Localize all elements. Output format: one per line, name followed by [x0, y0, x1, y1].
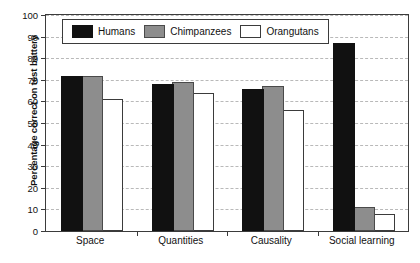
bar-group — [227, 15, 318, 231]
bar-orangs — [373, 214, 395, 231]
plot-area: 0102030405060708090100 — [45, 14, 409, 232]
bar-orangs — [101, 99, 123, 231]
y-axis-tick-label: 50 — [14, 118, 38, 129]
y-axis-title: Percentage correct on test battery — [28, 16, 39, 206]
x-axis-tick — [137, 231, 138, 236]
bar-chart-figure: Percentage correct on test battery 01020… — [0, 0, 420, 263]
bar-orangs — [192, 93, 214, 231]
bar-orangs — [282, 110, 304, 231]
legend-swatch-humans-icon — [72, 25, 93, 38]
legend-label: Humans — [98, 26, 135, 37]
bar-humans — [152, 84, 174, 231]
bar-humans — [333, 43, 355, 231]
x-axis-tick-label: Quantities — [158, 235, 203, 246]
legend-swatch-chimps-icon — [144, 25, 165, 38]
y-axis-tick-label: 100 — [14, 10, 38, 21]
legend-label: Orangutans — [266, 26, 318, 37]
y-axis-tick-label: 0 — [14, 226, 38, 237]
bar-chimps — [353, 207, 375, 231]
legend-item-orangs: Orangutans — [240, 25, 318, 38]
bar-chimps — [262, 86, 284, 231]
bar-chimps — [172, 82, 194, 231]
x-axis-tick-label: Social learning — [329, 235, 395, 246]
y-axis-tick-label: 70 — [14, 74, 38, 85]
x-axis-tick — [318, 231, 319, 236]
y-axis-tick-label: 10 — [14, 204, 38, 215]
bar-chimps — [81, 76, 103, 231]
plot-inner: 0102030405060708090100 — [46, 15, 408, 231]
bar-humans — [242, 89, 264, 231]
y-axis-tick-label: 80 — [14, 53, 38, 64]
x-axis-tick-label: Space — [76, 235, 104, 246]
legend-swatch-orangs-icon — [240, 25, 261, 38]
y-axis-tick — [41, 231, 46, 232]
chart-legend: HumansChimpanzeesOrangutans — [62, 19, 329, 44]
y-axis-tick-label: 20 — [14, 182, 38, 193]
legend-item-chimps: Chimpanzees — [144, 25, 231, 38]
bar-group — [46, 15, 137, 231]
x-axis-tick — [227, 231, 228, 236]
bar-humans — [61, 76, 83, 231]
bar-group — [137, 15, 228, 231]
y-axis-tick-label: 40 — [14, 139, 38, 150]
legend-item-humans: Humans — [72, 25, 135, 38]
y-axis-tick-label: 90 — [14, 31, 38, 42]
x-axis-tick-label: Causality — [251, 235, 292, 246]
y-axis-tick-label: 30 — [14, 161, 38, 172]
y-axis-tick-label: 60 — [14, 96, 38, 107]
bar-group — [318, 15, 409, 231]
legend-label: Chimpanzees — [170, 26, 231, 37]
